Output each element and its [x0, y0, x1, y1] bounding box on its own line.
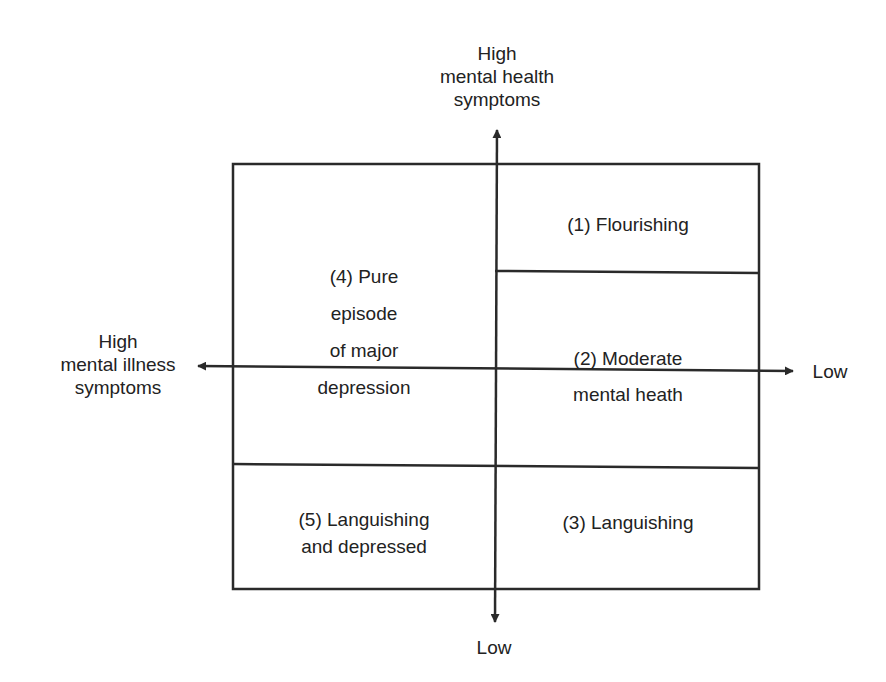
cell-flourishing: (1) Flourishing [497, 213, 759, 237]
axis-label-right: Low [800, 360, 860, 383]
flourishing-divider [495, 271, 759, 273]
axis-label-top-line: High [437, 42, 557, 65]
cell-pure-depression-text: (4) Pure [233, 258, 495, 295]
cell-languishing-depressed: (5) Languishing and depressed [233, 506, 495, 560]
cell-languishing: (3) Languishing [497, 511, 759, 535]
cell-languishing-text: (3) Languishing [497, 511, 759, 535]
axis-label-right-text: Low [813, 361, 848, 382]
axis-label-left-line: mental illness [43, 353, 193, 376]
cell-flourishing-text: (1) Flourishing [497, 213, 759, 237]
axis-label-top: High mental health symptoms [437, 42, 557, 111]
cell-pure-depression-text: depression [233, 369, 495, 406]
cell-pure-depression-text: of major [233, 332, 495, 369]
axis-label-left-line: High [43, 330, 193, 353]
cell-languishing-depressed-text: and depressed [233, 533, 495, 560]
axis-label-top-line: mental health [437, 65, 557, 88]
cell-moderate: (2) Moderate mental heath [497, 341, 759, 413]
axis-label-left-line: symptoms [43, 376, 193, 399]
cell-moderate-text: (2) Moderate [497, 341, 759, 377]
cell-pure-depression: (4) Pure episode of major depression [233, 258, 495, 406]
axis-label-top-line: symptoms [437, 88, 557, 111]
cell-moderate-text: mental heath [497, 377, 759, 413]
axis-label-bottom: Low [454, 636, 534, 659]
axis-label-bottom-text: Low [477, 637, 512, 658]
axis-label-left: High mental illness symptoms [43, 330, 193, 399]
cell-languishing-depressed-text: (5) Languishing [233, 506, 495, 533]
cell-pure-depression-text: episode [233, 295, 495, 332]
